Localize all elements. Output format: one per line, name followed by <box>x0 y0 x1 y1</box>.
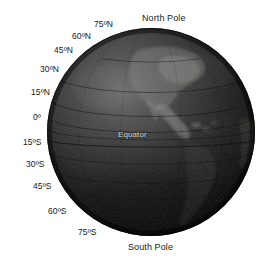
latitude-label-60n: 60ºN <box>72 32 91 41</box>
latitude-label-30s: 30ºS <box>26 160 45 169</box>
globe-figure: Equator North Pole South Pole 75ºN 60ºN … <box>0 0 267 261</box>
globe-svg <box>46 27 256 237</box>
latitude-label-30n: 30ºN <box>40 65 59 74</box>
latitude-label-15n: 15ºN <box>31 88 50 97</box>
latitude-label-45n: 45ºN <box>54 46 73 55</box>
latitude-label-75s: 75ºS <box>78 228 97 237</box>
latitude-label-75n: 75ºN <box>94 20 113 29</box>
latitude-label-45s: 45ºS <box>33 182 52 191</box>
latitude-label-15s: 15ºS <box>23 138 42 147</box>
south-pole-label: South Pole <box>128 243 173 252</box>
north-pole-label: North Pole <box>142 14 186 23</box>
globe-graphic: Equator <box>46 27 256 237</box>
equator-label: Equator <box>118 130 147 139</box>
latitude-label-0: 0º <box>33 113 41 122</box>
latitude-label-60s: 60ºS <box>48 207 67 216</box>
